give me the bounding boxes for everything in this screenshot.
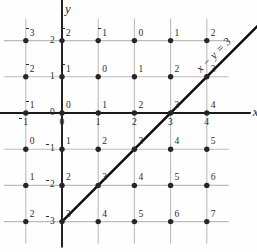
x-tick-label: 0 [60, 118, 65, 128]
point-value-label: 1 [66, 65, 71, 75]
point-value-label: 5 [138, 210, 143, 220]
point-value-label: 3 [102, 173, 107, 183]
coordinate-grid-figure: 321012210123101234012345123456234567 101… [0, 0, 257, 252]
y-tick-label: 1 [50, 72, 55, 82]
point-value-label: 0 [138, 29, 143, 39]
x-tick-label: 4 [204, 118, 209, 128]
x-tick-label: 1 [23, 118, 28, 128]
point-value-label: 2 [175, 65, 180, 75]
x-tick-label: 3 [168, 118, 173, 128]
lattice-points-group [23, 38, 209, 224]
point-value-label: 3 [66, 210, 71, 220]
point-value-label: 7 [211, 210, 216, 220]
point-value-label: 0 [30, 137, 35, 147]
point-value-label: 1 [102, 29, 107, 39]
point-value-label: 6 [211, 173, 216, 183]
y-tick-label: 1 [50, 144, 55, 154]
point-value-label: 2 [102, 137, 107, 147]
point-value-label: 1 [66, 137, 71, 147]
y-tick-label: 2 [50, 180, 55, 190]
x-tick-label: 2 [132, 118, 137, 128]
point-value-label: 2 [30, 65, 35, 75]
point-value-label: 0 [66, 101, 71, 111]
y-tick-label: 2 [50, 36, 55, 46]
point-value-label: 3 [138, 137, 143, 147]
grid-canvas [0, 0, 257, 252]
point-value-label: 2 [211, 29, 216, 39]
x-axis-label: x [253, 105, 257, 118]
point-value-label: 1 [30, 101, 35, 111]
equation-line [62, 24, 257, 221]
y-tick-label: 0 [50, 108, 55, 118]
x-tick-label: 1 [96, 118, 101, 128]
point-value-label: 3 [30, 29, 35, 39]
point-value-label: 1 [138, 65, 143, 75]
point-value-label: 2 [30, 210, 35, 220]
point-value-label: 1 [175, 29, 180, 39]
point-value-label: 3 [175, 101, 180, 111]
point-value-label: 3 [211, 65, 216, 75]
point-value-label: 4 [211, 101, 216, 111]
point-value-label: 1 [30, 173, 35, 183]
y-tick-label: 3 [50, 217, 55, 227]
point-value-label: 6 [175, 210, 180, 220]
point-value-label: 4 [102, 210, 107, 220]
gridlines-group [4, 19, 229, 244]
point-value-label: 5 [211, 137, 216, 147]
y-axis-label: y [65, 2, 71, 15]
point-value-label: 1 [102, 101, 107, 111]
point-value-label: 4 [175, 137, 180, 147]
point-value-label: 2 [138, 101, 143, 111]
point-value-label: 4 [138, 173, 143, 183]
point-value-label: 2 [66, 29, 71, 39]
point-value-label: 5 [175, 173, 180, 183]
point-value-label: 0 [102, 65, 107, 75]
point-value-label: 2 [66, 173, 71, 183]
